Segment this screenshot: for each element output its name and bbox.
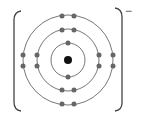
right-bracket <box>115 8 122 111</box>
charge-sign: − <box>125 4 132 18</box>
bohr-diagram: − <box>0 0 141 127</box>
left-bracket <box>14 11 21 111</box>
nucleus <box>64 56 72 64</box>
